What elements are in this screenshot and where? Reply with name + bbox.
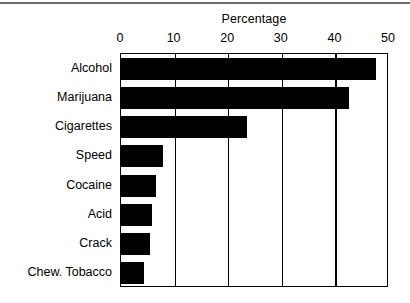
chart-figure: Percentage 01020304050 AlcoholMarijuanaC… xyxy=(0,0,410,303)
plot-area xyxy=(120,53,388,287)
top-divider-rule xyxy=(0,2,410,4)
category-label: Chew. Tobacco xyxy=(0,264,115,280)
category-label: Cigarettes xyxy=(0,118,115,134)
y-axis-category-labels: AlcoholMarijuanaCigarettesSpeedCocaineAc… xyxy=(0,53,115,287)
category-label: Speed xyxy=(0,147,115,163)
x-tick-label: 10 xyxy=(154,31,194,45)
chart-title: Percentage xyxy=(120,12,388,26)
category-label: Alcohol xyxy=(0,60,115,76)
bar xyxy=(121,175,156,197)
bar xyxy=(121,145,163,167)
category-label: Marijuana xyxy=(0,89,115,105)
category-label: Acid xyxy=(0,206,115,222)
x-tick-label: 30 xyxy=(261,31,301,45)
bar xyxy=(121,204,152,226)
bar xyxy=(121,116,247,138)
x-tick-label: 50 xyxy=(368,31,408,45)
bar xyxy=(121,87,349,109)
category-label: Cocaine xyxy=(0,177,115,193)
x-tick-label: 0 xyxy=(100,31,140,45)
x-tick-label: 40 xyxy=(314,31,354,45)
x-tick-label: 20 xyxy=(207,31,247,45)
category-label: Crack xyxy=(0,235,115,251)
x-axis-tick-labels: 01020304050 xyxy=(0,31,410,47)
bars-group xyxy=(121,54,387,286)
bar xyxy=(121,233,150,255)
bar xyxy=(121,58,376,80)
bar xyxy=(121,262,144,284)
